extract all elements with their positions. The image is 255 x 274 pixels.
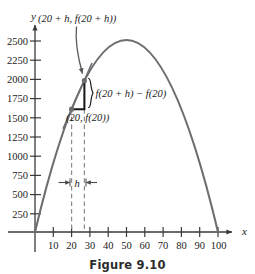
x-tick-label: 10 [48, 240, 59, 251]
axes-group [8, 25, 232, 252]
lower-point-label: (20, f(20)) [66, 112, 110, 124]
figure-caption: Figure 9.10 [0, 258, 255, 272]
point-marker-upper [82, 78, 87, 83]
x-tick-label: 50 [121, 240, 132, 251]
y-tick-label: 1250 [7, 132, 28, 143]
x-tick-label: 60 [140, 240, 151, 251]
x-tick-label: 90 [194, 240, 205, 251]
h-measure-group: h [59, 178, 98, 189]
x-tick-label: 40 [103, 240, 114, 251]
graph-plot: 250 500 750 1000 1250 1500 1750 2000 225… [0, 0, 255, 274]
y-axis-label: y [30, 10, 36, 22]
y-tick-label: 1500 [7, 113, 28, 124]
y-tick-label: 750 [12, 170, 28, 181]
h-label: h [75, 178, 80, 189]
y-tick-label: 2000 [7, 74, 28, 85]
upper-point-label: (20 + h, f(20 + h)) [38, 13, 117, 25]
x-tick-label: 20 [66, 240, 77, 251]
figure-container: 250 500 750 1000 1250 1500 1750 2000 225… [0, 0, 255, 274]
y-tick-label: 2500 [7, 36, 28, 47]
x-tick-label: 100 [211, 240, 227, 251]
y-tick-label: 250 [12, 209, 28, 220]
x-tick-label: 30 [85, 240, 96, 251]
curve-fx [35, 40, 218, 232]
x-tick-label: 70 [158, 240, 169, 251]
x-axis-label: x [241, 225, 247, 237]
y-axis-tick-labels: 250 500 750 1000 1250 1500 1750 2000 225… [7, 36, 28, 220]
x-tick-label: 80 [176, 240, 187, 251]
y-tick-label: 1000 [7, 151, 28, 162]
rise-brace [89, 79, 94, 108]
rise-label: f(20 + h) − f(20) [96, 88, 167, 100]
y-tick-label: 2250 [7, 55, 28, 66]
y-tick-label: 500 [12, 189, 28, 200]
x-axis-tick-labels: 10 20 30 40 50 60 70 80 90 100 [48, 240, 226, 251]
y-tick-label: 1750 [7, 93, 28, 104]
callout-arrow [76, 27, 82, 74]
